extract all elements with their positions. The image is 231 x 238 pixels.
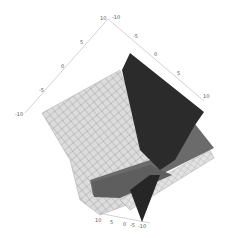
tick-label: 10 xyxy=(95,217,101,223)
tick-label: -5 xyxy=(39,87,44,93)
surface-plot-3d: 10 5 0 -5 -10 -10 -5 0 5 10 10 5 0 -5 -1… xyxy=(0,0,231,238)
tick-label: 0 xyxy=(123,221,126,227)
tick-label: 10 xyxy=(203,93,209,99)
tick-label: 5 xyxy=(80,39,83,45)
tick-label: 10 xyxy=(100,15,106,21)
tick-label: -5 xyxy=(130,222,135,228)
tick-label: 5 xyxy=(110,219,113,225)
tick-label: -10 xyxy=(15,111,23,117)
tick-label: -10 xyxy=(138,223,146,229)
bottom-axis-ticks: 10 5 0 -5 -10 xyxy=(95,217,146,229)
tick-label: 0 xyxy=(154,51,157,57)
tick-label: -5 xyxy=(133,33,138,39)
tick-label: 0 xyxy=(61,63,64,69)
tick-label: -10 xyxy=(112,14,120,20)
tick-label: 5 xyxy=(177,70,180,76)
